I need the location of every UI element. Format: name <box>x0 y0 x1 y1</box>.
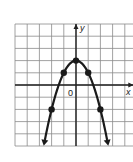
origin-label: 0 <box>68 89 73 98</box>
x-axis-label: x <box>126 88 131 97</box>
parabola-graph <box>0 0 133 162</box>
axes <box>15 24 133 146</box>
y-axis-label: y <box>80 24 85 33</box>
